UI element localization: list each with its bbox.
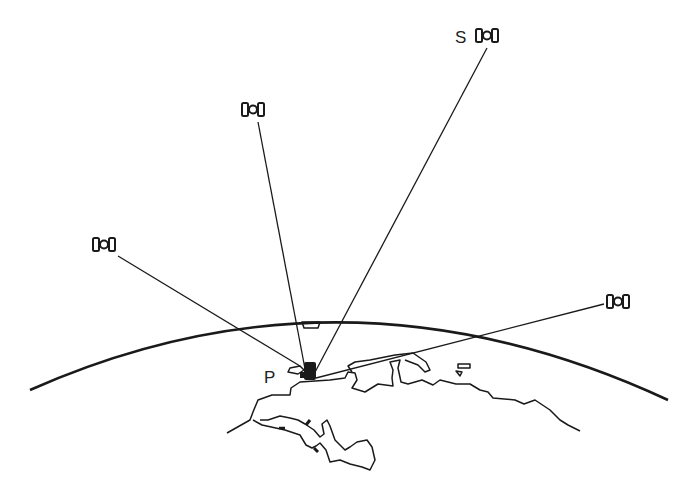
earth-horizon-arc	[30, 322, 668, 400]
coastline-map	[227, 322, 580, 470]
satellite-icon	[242, 103, 264, 116]
satellite-icon	[93, 238, 115, 251]
sight-lines	[118, 48, 604, 378]
satellite-label: S	[455, 28, 466, 48]
satellite-icon	[607, 295, 629, 308]
gps-satellite-diagram	[0, 0, 693, 495]
satellite-icon	[476, 29, 498, 42]
point-label: P	[264, 368, 275, 388]
